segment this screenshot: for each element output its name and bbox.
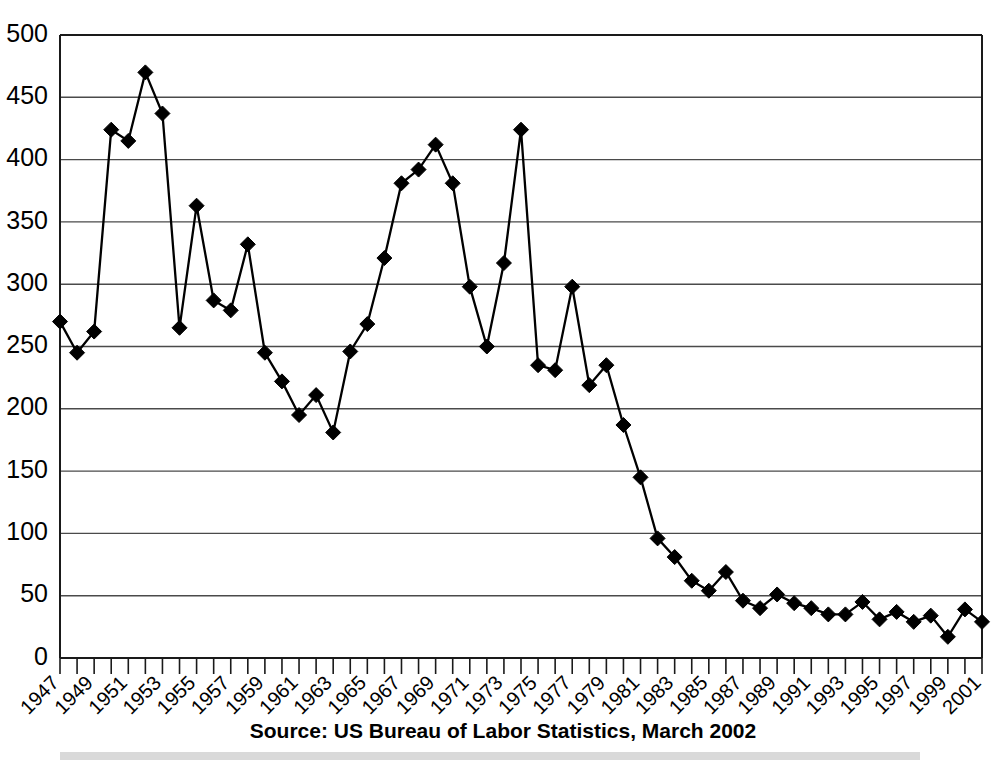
chart-background — [0, 0, 1006, 760]
source-note: Source: US Bureau of Labor Statistics, M… — [250, 719, 756, 742]
y-tick-label-0: 0 — [34, 642, 48, 670]
y-tick-label-400: 400 — [6, 143, 48, 171]
page-edge-band — [60, 752, 920, 760]
y-tick-label-500: 500 — [6, 19, 48, 47]
y-tick-label-300: 300 — [6, 268, 48, 296]
y-tick-label-100: 100 — [6, 517, 48, 545]
y-tick-label-350: 350 — [6, 206, 48, 234]
chart-container: 500450400350300250200150100500 194719491… — [0, 0, 1006, 760]
y-tick-label-450: 450 — [6, 81, 48, 109]
y-tick-label-250: 250 — [6, 330, 48, 358]
y-tick-label-150: 150 — [6, 455, 48, 483]
y-tick-label-50: 50 — [20, 579, 48, 607]
line-chart: 500450400350300250200150100500 194719491… — [0, 0, 1006, 760]
y-tick-label-200: 200 — [6, 392, 48, 420]
